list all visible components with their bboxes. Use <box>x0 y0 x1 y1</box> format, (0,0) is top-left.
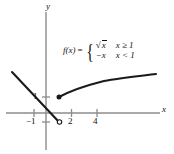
formula-brace: { <box>86 43 94 59</box>
open-endpoint-marker <box>57 120 61 124</box>
x-axis-label: x <box>162 105 166 114</box>
x-tick-label-4: 4 <box>93 117 98 126</box>
piecewise-formula: f(x) = { √x x ≥ 1 −x x < 1 <box>63 40 135 62</box>
square-root-icon: √ <box>96 40 101 50</box>
closed-endpoint-marker <box>57 95 62 100</box>
function-graph-figure: y x 1 −1 2 4 f(x) = { √x x ≥ 1 −x x < 1 <box>0 0 174 154</box>
formula-cases: √x x ≥ 1 −x x < 1 <box>96 40 135 62</box>
y-tick-label-1: 1 <box>33 92 38 101</box>
formula-case-2-value: −x <box>96 51 112 61</box>
formula-case-2-condition: x < 1 <box>116 51 135 61</box>
formula-function-name: f(x) <box>63 46 76 56</box>
x-tick-label-2: 2 <box>68 117 73 126</box>
y-axis-label: y <box>46 2 50 11</box>
sqrt-branch-curve <box>59 74 156 97</box>
formula-case-2: −x x < 1 <box>96 51 135 62</box>
plot-canvas <box>0 0 174 154</box>
y-tick-label-negative-1: −1 <box>26 117 36 126</box>
formula-equals-sign: = <box>78 46 83 56</box>
